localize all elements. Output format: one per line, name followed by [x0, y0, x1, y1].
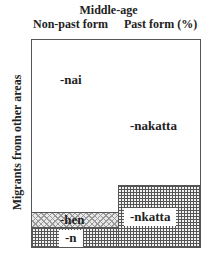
column-header-non-past: Non-past form: [33, 17, 108, 32]
column-non-past: -nai -hen -n: [32, 40, 119, 247]
y-axis-label: Migrants from other areas: [10, 68, 25, 218]
mosaic-plot: -nai -hen -n -nakatta -nkatta: [31, 39, 201, 248]
segment-nkatta: -nkatta: [118, 185, 200, 247]
column-past: -nakatta -nkatta: [118, 40, 200, 247]
column-header-past: Past form (%): [124, 17, 197, 32]
segment-label-nai: -nai: [60, 72, 82, 88]
segment-label-nkatta: -nkatta: [124, 208, 176, 226]
chart-title: Middle-age: [0, 3, 217, 18]
segment-label-nakatta: -nakatta: [130, 118, 177, 134]
segment-nai: -nai: [32, 40, 118, 212]
segment-hen: -hen: [32, 212, 118, 227]
segment-nakatta: -nakatta: [118, 40, 200, 185]
segment-label-hen: -hen: [60, 212, 85, 228]
segment-label-n: -n: [59, 230, 83, 247]
segment-n: -n: [32, 227, 118, 247]
